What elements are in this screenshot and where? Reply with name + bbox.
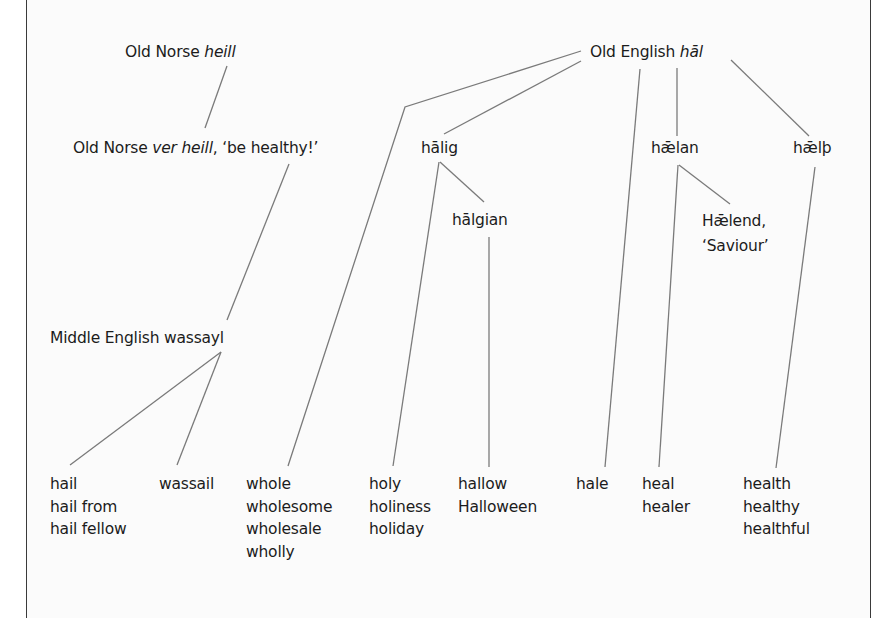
leaf-word: hail from	[50, 496, 126, 519]
leaf-word: wholesale	[246, 518, 332, 541]
leaf-word: hale	[576, 473, 608, 496]
leaf-word: hail fellow	[50, 518, 126, 541]
leaf-word: wassail	[159, 473, 214, 496]
node-old-norse-ver-heill: Old Norse ver heill, ‘be healthy!’	[73, 138, 318, 158]
node-haelend-term: Hǣlend,	[702, 209, 769, 234]
node-haelan: hǣlan	[651, 138, 699, 158]
leaf-word: healer	[642, 496, 690, 519]
node-halig: hālig	[421, 138, 458, 158]
leaf-word: holiness	[369, 496, 431, 519]
node-italic-term: heill	[204, 43, 235, 61]
leaf-word: healthy	[743, 496, 810, 519]
node-old-norse-heill: Old Norse heill	[125, 42, 236, 62]
leaf-group-hale: hale	[576, 473, 608, 496]
leaf-group-wassail: wassail	[159, 473, 214, 496]
leaf-word: hail	[50, 473, 126, 496]
node-prefix: Old Norse	[125, 43, 204, 61]
node-haelend-gloss: ‘Saviour’	[702, 234, 769, 259]
leaf-word: whole	[246, 473, 332, 496]
node-prefix: Old Norse	[73, 139, 152, 157]
node-halgian: hālgian	[452, 210, 508, 230]
leaf-word: holy	[369, 473, 431, 496]
leaf-group-holy: holy holiness holiday	[369, 473, 431, 541]
leaf-group-health: health healthy healthful	[743, 473, 810, 541]
leaf-word: health	[743, 473, 810, 496]
leaf-word: Halloween	[458, 496, 537, 519]
node-middle-english-wassayl: Middle English wassayl	[50, 328, 224, 348]
node-haelend: Hǣlend, ‘Saviour’	[702, 209, 769, 259]
node-prefix: Old English	[590, 43, 680, 61]
node-italic-term: ver heill	[152, 139, 213, 157]
leaf-group-whole: whole wholesome wholesale wholly	[246, 473, 332, 563]
node-old-english-hal: Old English hāl	[590, 42, 703, 62]
leaf-group-hail: hail hail from hail fellow	[50, 473, 126, 541]
leaf-word: wholly	[246, 541, 332, 564]
leaf-group-heal: heal healer	[642, 473, 690, 518]
leaf-word: wholesome	[246, 496, 332, 519]
node-italic-term: hāl	[680, 43, 703, 61]
leaf-word: holiday	[369, 518, 431, 541]
leaf-word: hallow	[458, 473, 537, 496]
leaf-word: heal	[642, 473, 690, 496]
leaf-group-hallow: hallow Halloween	[458, 473, 537, 518]
node-haelth: hǣlþ	[793, 138, 831, 158]
node-gloss: , ‘be healthy!’	[213, 139, 318, 157]
leaf-word: healthful	[743, 518, 810, 541]
